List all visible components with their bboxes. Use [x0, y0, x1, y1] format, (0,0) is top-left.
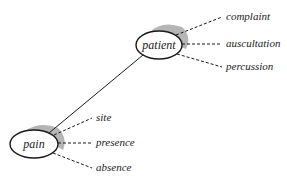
node-pain-label: pain [22, 137, 44, 151]
attr-complaint: complaint [226, 10, 271, 22]
attr-presence: presence [95, 136, 135, 148]
attr-site: site [96, 111, 111, 123]
patient-complaint-link [176, 17, 222, 35]
attr-percussion: percussion [225, 60, 274, 72]
pain-absence-link [53, 153, 92, 168]
node-patient-label: patient [141, 38, 176, 52]
pain-site-link [54, 118, 92, 135]
attr-absence: absence [96, 161, 132, 173]
attr-auscultation: auscultation [226, 37, 281, 49]
patient-percussion-link [177, 54, 222, 67]
diagram-canvas: patient complaint auscultation percussio… [0, 0, 287, 185]
diagram-svg: patient complaint auscultation percussio… [0, 0, 287, 185]
